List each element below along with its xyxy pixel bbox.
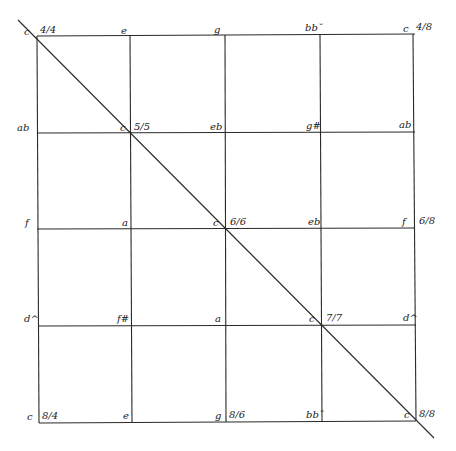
label-r4-c3: a [215,314,221,324]
label-r5-left: c [27,412,33,422]
label-r4-c2: f# [117,314,129,324]
label-r2-c2: c [120,123,126,133]
label-r3-left: f [25,218,29,228]
h-line-2 [37,132,415,133]
label-r3-c4: eb [308,217,320,227]
h-line-5 [39,421,416,423]
ratio-8-8: 8/8 [419,409,435,419]
ratio-4-8: 4/8 [416,22,432,32]
label-r4-right: d^ [403,313,418,323]
label-r1-left: c [24,27,30,37]
label-r3-right: f [402,217,406,227]
tuning-lattice-diagram: c 4/4 e g bb˘ c 4/8 ab c 5/5 eb g# ab f … [0,0,456,451]
label-r5-c2: e [123,411,129,421]
ratio-8-6: 8/6 [229,410,245,420]
label-r2-c4: g# [306,121,321,131]
label-r3-c3: c [213,218,219,228]
label-r1-c2: e [121,26,127,36]
label-r2-left: ab [17,123,29,133]
label-r4-c4: c [309,314,315,324]
label-r5-right: c [404,410,410,420]
label-r1-c4: bb˘ [305,23,323,33]
label-r5-c4: bb˘ [306,410,324,420]
label-r1-c3: g [214,25,220,35]
ratio-7-7: 7/7 [326,313,342,323]
h-line-1 [37,34,415,36]
label-r2-right: ab [399,120,411,130]
grid-lines [0,0,456,451]
label-r5-c3: g [215,411,221,421]
label-r2-c3: eb [210,122,222,132]
label-r3-c2: a [122,218,128,228]
label-r4-left: d^ [24,314,39,324]
ratio-8-4: 8/4 [42,411,58,421]
ratio-4-4: 4/4 [40,25,56,35]
ratio-6-6: 6/6 [230,217,246,227]
h-line-4 [38,325,416,326]
ratio-5-5: 5/5 [134,122,150,132]
label-r1-right: c [403,24,409,34]
ratio-6-8: 6/8 [419,216,435,226]
